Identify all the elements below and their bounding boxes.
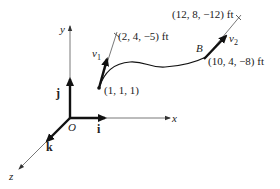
v1-label: v1 bbox=[92, 47, 101, 62]
start-point-label: (1, 1, 1) bbox=[104, 84, 139, 97]
point-b-label: B bbox=[196, 42, 203, 54]
start-point bbox=[97, 86, 101, 90]
origin-label: O bbox=[68, 121, 76, 133]
tangent1-end-label: (2, 4, −5) ft bbox=[118, 30, 169, 43]
z-axis-label: z bbox=[8, 170, 14, 182]
tangent2-end-label: (12, 8, −12) ft bbox=[172, 8, 234, 21]
point-b-coords: (10, 4, −8) ft bbox=[208, 55, 264, 68]
j-label: j bbox=[55, 86, 60, 100]
i-label: i bbox=[97, 122, 101, 136]
k-vector bbox=[47, 118, 70, 141]
k-label: k bbox=[46, 140, 53, 154]
x-axis-label: x bbox=[171, 112, 177, 124]
kinematics-diagram: y x z O j i k (1, 1, 1) (2, 4, −5) ft v1… bbox=[0, 0, 280, 189]
v2-label: v2 bbox=[229, 32, 238, 47]
y-axis-label: y bbox=[59, 23, 65, 35]
